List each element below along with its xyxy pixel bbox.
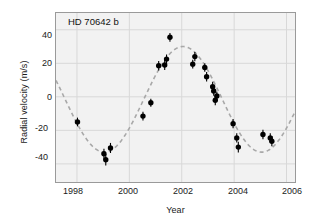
- y-axis-title: Radial velocity (m/s): [19, 37, 29, 167]
- y-tick-label-20: 20: [26, 58, 52, 68]
- data-point: [260, 132, 265, 137]
- data-point: [236, 144, 241, 149]
- data-point: [192, 54, 197, 59]
- data-point: [190, 61, 195, 66]
- data-point: [108, 145, 113, 150]
- radial-velocity-figure: Radial velocity (m/s) 40 20 0 -20 -40 HD…: [0, 0, 315, 224]
- data-point: [167, 35, 172, 40]
- gridlines: [56, 13, 296, 183]
- keplerian-fit-curve: [56, 47, 296, 153]
- data-point: [214, 93, 219, 98]
- y-tick-label-0: 0: [26, 92, 52, 102]
- y-tick-label-40: 40: [26, 30, 52, 40]
- data-point: [164, 56, 169, 61]
- plot-area: [55, 12, 296, 183]
- data-point: [202, 65, 207, 70]
- data-point: [140, 113, 145, 118]
- x-axis-title: Year: [55, 205, 296, 215]
- plot-canvas: [56, 13, 296, 183]
- data-point: [234, 135, 239, 140]
- data-point: [103, 157, 108, 162]
- data-point: [269, 139, 274, 144]
- data-point: [148, 100, 153, 105]
- data-point: [156, 63, 161, 68]
- x-tick-label-2000: 2000: [108, 186, 148, 196]
- y-tick-label-neg40: -40: [22, 152, 48, 162]
- data-point: [75, 119, 80, 124]
- x-tick-label-2004: 2004: [218, 186, 258, 196]
- chart-title: HD 70642 b: [68, 16, 119, 27]
- data-points-group: [75, 33, 275, 165]
- data-point: [211, 88, 216, 93]
- data-point: [204, 74, 209, 79]
- fit-curve-group: [56, 47, 296, 153]
- x-tick-label-2006: 2006: [272, 186, 312, 196]
- x-tick-label-1998: 1998: [53, 186, 93, 196]
- x-tick-label-2002: 2002: [163, 186, 203, 196]
- y-tick-label-neg20: -20: [22, 123, 48, 133]
- data-point: [230, 121, 235, 126]
